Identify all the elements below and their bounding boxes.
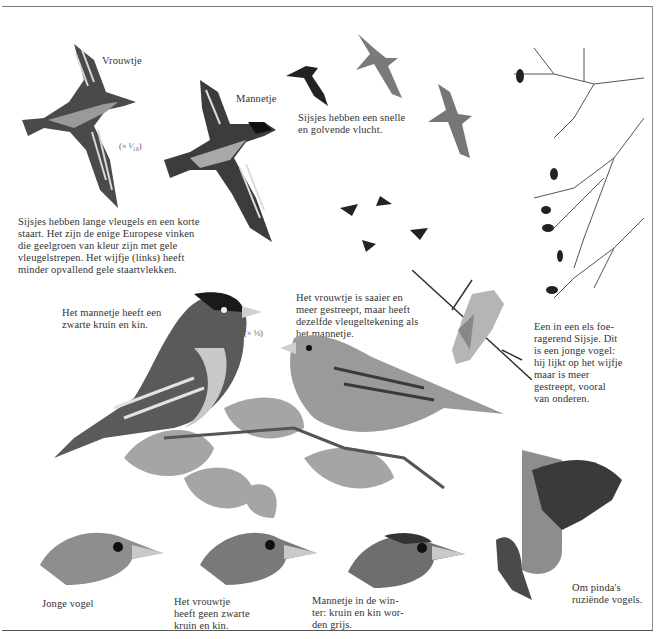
flight-caption: Sijsjes hebben een snelle en golvende vl… <box>298 112 405 136</box>
flight-scale-label: (× ¹⁄₁₀) <box>119 141 141 151</box>
frame-top-line <box>2 6 653 7</box>
perched-pair-illustration <box>44 288 514 528</box>
small-flying-siskin-dark <box>284 62 332 108</box>
head-caption-young: Jonge vogel <box>42 598 94 610</box>
frame-right-line <box>652 6 653 631</box>
alder-branches-illustration <box>494 38 644 298</box>
alder-caption: Een in een els foe- ragerend Sijsje. Dit… <box>534 321 623 405</box>
female-head-illustration <box>196 525 320 585</box>
male-label: Mannetje <box>236 93 276 105</box>
head-caption-winter-male: Mannetje in de win- ter: kruin en kin wo… <box>312 595 404 631</box>
small-flying-siskin-2 <box>426 82 474 160</box>
winter-male-head-illustration <box>344 528 468 588</box>
wings-caption: Sijsjes hebben lange vleugels en een kor… <box>18 216 199 276</box>
small-flying-siskin-1 <box>352 30 408 100</box>
female-label: Vrouwtje <box>102 55 142 67</box>
young-bird-head-illustration <box>36 525 166 585</box>
head-caption-female: Het vrouwtje heeft geen zwarte kruin en … <box>174 596 250 632</box>
distant-flock-illustration <box>336 190 436 256</box>
feeder-caption: Om pinda's ruziënde vogels. <box>572 582 642 606</box>
